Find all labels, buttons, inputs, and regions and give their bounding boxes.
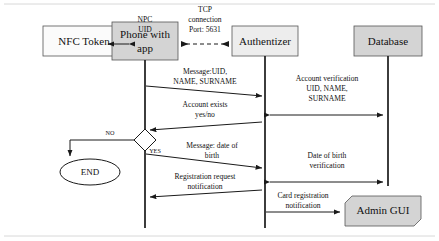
- message-account-verification: Account verification UID, NAME, SURNAME: [270, 74, 383, 115]
- message-arrow-account-exists: [150, 122, 262, 130]
- message-label-dobver-line1: Date of birth: [308, 151, 347, 160]
- participant-label-authentizer: Authentizer: [239, 35, 291, 47]
- message-date-of-birth-verification: Date of birth verification: [270, 151, 383, 182]
- message-registration-request-notification: Registration request notification: [150, 172, 262, 197]
- sequence-diagram: NFC Token Phone with app Authentizer Dat…: [0, 0, 439, 241]
- message-label-uid-line2: NAME, SURNAME: [173, 77, 237, 86]
- message-tcp-connection: TCP connection Port: 5631: [181, 5, 229, 47]
- message-label-cardreg-line2: notification: [285, 201, 320, 210]
- participant-admin-gui[interactable]: Admin GUI: [345, 196, 421, 226]
- message-card-registration-notification: Card registration notification: [266, 191, 340, 212]
- message-label-acctver-line3: SURNAME: [308, 94, 345, 103]
- arrowhead-tcp-right: [222, 41, 230, 47]
- participant-authentizer[interactable]: Authentizer: [232, 26, 298, 56]
- message-label-cardreg-line1: Card registration: [277, 191, 328, 200]
- message-label-acctver-line2: UID, NAME,: [306, 84, 348, 93]
- message-label-acctver-line1: Account verification: [296, 74, 359, 83]
- message-label-regreq-line1: Registration request: [175, 172, 237, 181]
- arrowhead-tcp-left: [181, 41, 189, 47]
- end-node: END: [60, 159, 120, 185]
- decision-branch-no-path: [70, 140, 134, 156]
- message-label-dobver-line2: verification: [310, 161, 345, 170]
- participant-database[interactable]: Database: [354, 26, 422, 56]
- message-arrow-uid-name-surname: [146, 86, 262, 96]
- message-label-npc-uid-line1: NPC: [138, 15, 153, 24]
- message-arrow-registration-request: [150, 190, 262, 197]
- message-label-regreq-line2: notification: [187, 182, 222, 191]
- message-label-acctexists-line2: yes/no: [195, 110, 215, 119]
- message-account-exists: Account exists yes/no: [150, 100, 262, 130]
- message-label-npc-uid-line2: UID: [138, 25, 152, 34]
- message-label-acctexists-line1: Account exists: [183, 100, 228, 109]
- message-label-uid-line1: Message:UID,: [183, 67, 227, 76]
- decision-branch-yes-label: YES: [149, 147, 161, 154]
- participant-label-admin-gui: Admin GUI: [357, 204, 410, 216]
- participant-label-database: Database: [368, 35, 408, 47]
- message-label-dob-line1: Message: date of: [186, 141, 238, 150]
- message-label-tcp-line1: TCP: [198, 5, 212, 14]
- decision-account-exists[interactable]: NO YES: [70, 129, 161, 156]
- message-message-uid-name-surname: Message:UID, NAME, SURNAME: [146, 67, 262, 96]
- end-node-label: END: [81, 167, 100, 177]
- participant-label-phone-line2: app: [137, 42, 153, 54]
- sequence-diagram-canvas: NFC Token Phone with app Authentizer Dat…: [0, 0, 439, 241]
- participant-label-nfc-token: NFC Token: [58, 35, 110, 47]
- decision-branch-no-label: NO: [106, 129, 115, 136]
- message-label-tcp-line2: connection: [188, 15, 222, 24]
- message-label-dob-line2: birth: [205, 151, 220, 160]
- message-date-of-birth: Message: date of birth: [146, 141, 262, 168]
- message-label-tcp-line3: Port: 5631: [189, 25, 221, 34]
